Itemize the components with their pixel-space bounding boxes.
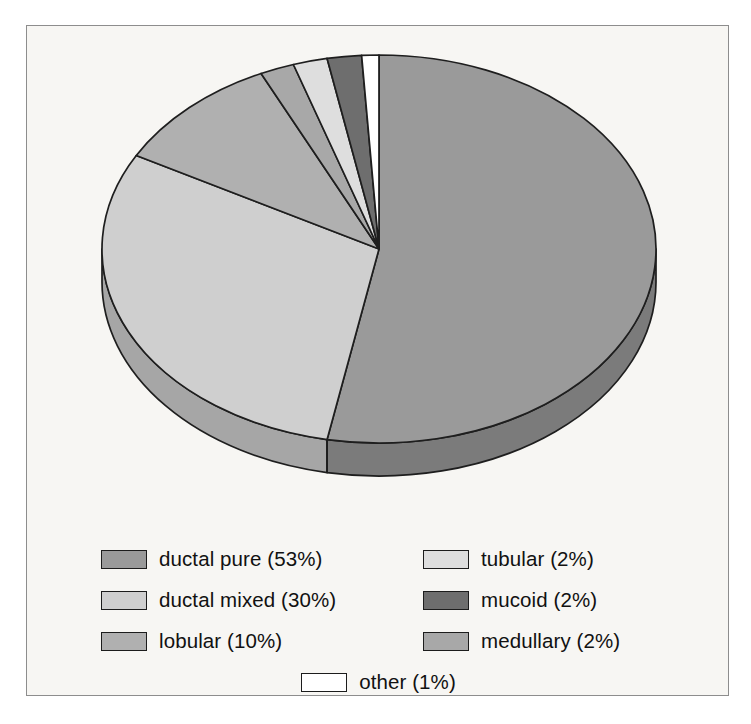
legend-label-lobular: lobular (10%): [159, 629, 282, 653]
legend-label-ductal-mixed: ductal mixed (30%): [159, 588, 336, 612]
legend-item-other[interactable]: other (1%): [27, 665, 730, 699]
legend-item-tubular[interactable]: tubular (2%): [423, 542, 594, 576]
legend-swatch-medullary: [423, 632, 469, 651]
figure-frame: ductal pure (53%)ductal mixed (30%)lobul…: [26, 25, 729, 696]
legend-item-mucoid[interactable]: mucoid (2%): [423, 583, 597, 617]
legend-swatch-lobular: [101, 632, 147, 651]
pie-chart: ductal pure (53%)ductal mixed (30%)lobul…: [27, 26, 730, 496]
legend-label-medullary: medullary (2%): [481, 629, 620, 653]
legend-swatch-mucoid: [423, 591, 469, 610]
legend-item-ductal-mixed[interactable]: ductal mixed (30%): [101, 583, 336, 617]
legend-swatch-tubular: [423, 550, 469, 569]
chart-legend: ductal pure (53%) ductal mixed (30%) lob…: [27, 504, 730, 694]
legend-item-lobular[interactable]: lobular (10%): [101, 624, 282, 658]
legend-label-ductal-pure: ductal pure (53%): [159, 547, 323, 571]
legend-label-tubular: tubular (2%): [481, 547, 594, 571]
pie-chart-svg: ductal pure (53%)ductal mixed (30%)lobul…: [27, 26, 730, 496]
legend-label-other: other (1%): [359, 670, 456, 694]
legend-swatch-other: [301, 673, 347, 692]
legend-swatch-ductal-pure: [101, 550, 147, 569]
legend-item-ductal-pure[interactable]: ductal pure (53%): [101, 542, 323, 576]
legend-swatch-ductal-mixed: [101, 591, 147, 610]
pie-top-slices: ductal pure (53%)ductal mixed (30%)lobul…: [102, 55, 656, 443]
legend-label-mucoid: mucoid (2%): [481, 588, 597, 612]
legend-item-medullary[interactable]: medullary (2%): [423, 624, 620, 658]
